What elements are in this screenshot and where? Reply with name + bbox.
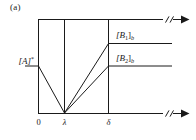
xtick-label-lambda: λ — [62, 117, 67, 127]
label-b2-plateau: [B2]b — [116, 53, 134, 64]
label-a-star: [A]* — [18, 55, 34, 66]
label-a-star-superscript: * — [31, 55, 34, 62]
figure-panel-a: (a) — [0, 0, 196, 140]
bottom-axis-arrowhead — [181, 110, 190, 118]
xtick-label-0: 0 — [36, 117, 40, 127]
label-b1-subscript-b: b — [131, 34, 134, 41]
label-a-star-base: [A] — [18, 56, 31, 66]
bottom-break-slash-1 — [166, 110, 170, 116]
curve-a-star — [25, 66, 65, 113]
bottom-break-slash-2 — [170, 110, 174, 116]
label-b2-subscript-b: b — [131, 57, 134, 64]
top-axis-break-arrow-group — [166, 16, 190, 24]
top-break-slash-2 — [170, 16, 174, 22]
xtick-label-delta: δ — [107, 117, 112, 127]
curve-b2 — [65, 66, 173, 113]
top-break-slash-1 — [166, 16, 170, 22]
kinetics-schematic-plot: [A]* [B1]b [B2]b 0 λ δ — [0, 0, 196, 140]
top-axis-arrowhead — [181, 16, 190, 24]
bottom-axis-break-arrow-group — [166, 110, 190, 118]
label-b1-plateau: [B1]b — [116, 30, 134, 41]
